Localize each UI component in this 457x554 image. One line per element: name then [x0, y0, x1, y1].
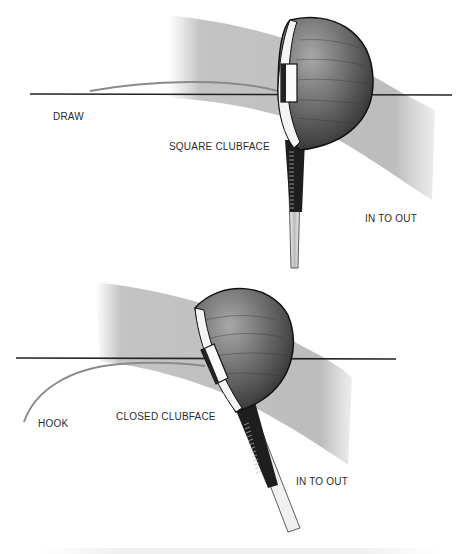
shot-shape-label: HOOK [38, 418, 68, 429]
bottom-edge-shading [40, 548, 440, 554]
swing-path-label: IN TO OUT [365, 213, 417, 224]
hosel [285, 140, 305, 212]
clubface-label: CLOSED CLUBFACE [116, 411, 216, 422]
swing-path-label: IN TO OUT [296, 476, 348, 487]
hook-illustration [0, 270, 457, 554]
hook-panel: HOOK CLOSED CLUBFACE IN TO OUT [0, 270, 457, 554]
shot-shape-label: DRAW [53, 111, 84, 122]
draw-illustration [0, 0, 457, 275]
clubface-label: SQUARE CLUBFACE [169, 141, 270, 152]
draw-panel: DRAW SQUARE CLUBFACE IN TO OUT [0, 0, 457, 275]
target-line [30, 94, 452, 95]
